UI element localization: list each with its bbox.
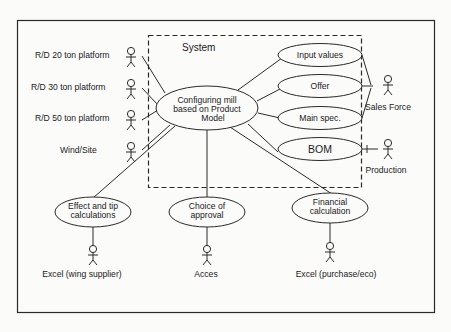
use-case-offer[interactable]: Offer — [278, 75, 362, 98]
actor-label: R/D 20 ton platform — [35, 50, 110, 60]
actor-icon — [126, 79, 136, 99]
actor-acces[interactable]: Acces — [194, 245, 217, 279]
actor-wind-site[interactable]: Wind/Site — [60, 142, 136, 162]
actor-label: Excel (purchase/eco) — [296, 269, 377, 279]
actor-icon — [383, 75, 393, 95]
actor-label: R/D 30 ton platform — [31, 82, 106, 92]
use-case-input-values[interactable]: Input values — [278, 44, 362, 67]
use-case-diagram: System Configuring mill based on Product — [0, 0, 451, 332]
actor-label: Wind/Site — [60, 145, 97, 155]
use-case-configuring-mill[interactable]: Configuring mill based on Product Model — [156, 86, 258, 130]
actor-label: Excel (wing supplier) — [42, 269, 121, 279]
actor-label: Acces — [194, 269, 217, 279]
use-case-bom[interactable]: BOM — [278, 138, 362, 161]
use-case-label: calculation — [310, 206, 351, 216]
actor-icon — [383, 139, 393, 159]
use-case-label: Model — [201, 113, 224, 123]
actor-rd30[interactable]: R/D 30 ton platform — [31, 79, 136, 99]
actor-label: Production — [365, 165, 406, 175]
use-case-financial-calculation[interactable]: Financial calculation — [292, 193, 368, 223]
actor-icon — [126, 47, 136, 67]
use-case-label: Input values — [297, 50, 343, 60]
use-case-choice-approval[interactable]: Choice of approval — [169, 197, 245, 227]
use-case-label: approval — [191, 210, 224, 220]
system-label: System — [182, 42, 215, 53]
actor-excel-purchase-eco[interactable]: Excel (purchase/eco) — [296, 242, 377, 279]
use-case-main-spec[interactable]: Main spec. — [278, 107, 362, 130]
actor-icon — [88, 245, 98, 265]
actor-icon — [325, 242, 335, 262]
use-case-label: BOM — [308, 143, 332, 155]
actor-rd20[interactable]: R/D 20 ton platform — [35, 47, 136, 67]
use-case-label: Main spec. — [299, 113, 341, 123]
actor-icon — [126, 142, 136, 162]
actor-icon — [126, 110, 136, 130]
use-case-label: Offer — [311, 81, 330, 91]
use-case-label: calculations — [71, 210, 116, 220]
use-case-effect-tip[interactable]: Effect and tip calculations — [55, 197, 131, 227]
actor-label: Sales Force — [365, 102, 411, 112]
actor-sales-force[interactable]: Sales Force — [365, 75, 411, 112]
actor-rd50[interactable]: R/D 50 ton platform — [35, 110, 136, 130]
actor-label: R/D 50 ton platform — [35, 113, 110, 123]
actor-production[interactable]: Production — [365, 139, 406, 175]
actor-excel-wing-supplier[interactable]: Excel (wing supplier) — [42, 245, 121, 279]
actor-icon — [202, 245, 212, 265]
